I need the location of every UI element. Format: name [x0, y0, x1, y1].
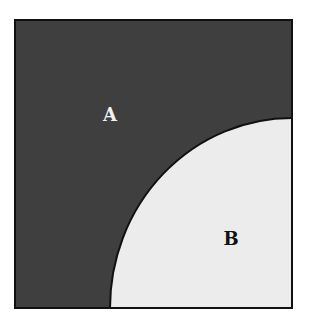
region-b-label: B	[223, 228, 238, 249]
region-a-label: A	[102, 104, 118, 125]
venn-quarter-circle-diagram: A B	[0, 0, 311, 330]
